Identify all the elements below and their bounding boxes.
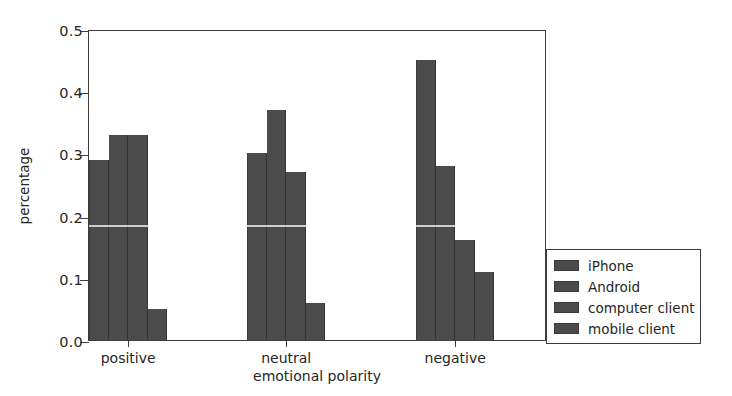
scan-artifact-line — [89, 225, 545, 227]
y-tick-label: 0.5 — [59, 23, 83, 39]
legend-label: iPhone — [588, 258, 634, 274]
bar-neutral-iPhone — [247, 153, 267, 340]
bar-positive-mobile-client — [148, 309, 168, 340]
legend-swatch-icon — [554, 281, 579, 292]
y-tick-label: 0.2 — [59, 210, 83, 226]
x-tick-label-negative: negative — [425, 350, 486, 366]
bar-negative-mobile-client — [475, 272, 495, 340]
y-tick-label: 0.4 — [59, 85, 83, 101]
bar-negative-Android — [436, 166, 456, 340]
bar-neutral-Android — [267, 110, 287, 340]
bar-chart-figure: percentage 0.00.10.20.30.40.5 positivene… — [0, 0, 732, 396]
x-tick-mark-neutral — [286, 340, 287, 347]
legend-label: mobile client — [588, 321, 675, 337]
x-tick-label-positive: positive — [101, 350, 156, 366]
x-axis-label: emotional polarity — [253, 368, 381, 384]
y-tick-label: 0.1 — [59, 272, 83, 288]
y-axis-label: percentage — [16, 148, 32, 225]
legend-swatch-icon — [554, 323, 579, 334]
bar-positive-iPhone — [89, 160, 109, 340]
legend-item-Android: Android — [554, 276, 693, 297]
bar-negative-computer-client — [455, 240, 475, 340]
legend-item-mobile-client: mobile client — [554, 318, 693, 339]
legend-swatch-icon — [554, 260, 579, 271]
y-tick-label: 0.3 — [59, 147, 83, 163]
bar-positive-Android — [109, 135, 129, 340]
x-tick-mark-positive — [128, 340, 129, 347]
bar-neutral-mobile-client — [306, 303, 326, 340]
y-tick-label: 0.0 — [59, 334, 83, 350]
bar-negative-iPhone — [416, 60, 436, 340]
plot-area: 0.00.10.20.30.40.5 positiveneutralnegati… — [88, 30, 546, 341]
x-tick-label-neutral: neutral — [261, 350, 311, 366]
legend-swatch-icon — [554, 302, 579, 313]
bar-positive-computer-client — [128, 135, 148, 340]
x-tick-mark-negative — [455, 340, 456, 347]
bar-neutral-computer-client — [286, 172, 306, 340]
legend-label: Android — [588, 279, 640, 295]
legend-item-iPhone: iPhone — [554, 255, 693, 276]
legend-item-computer-client: computer client — [554, 297, 693, 318]
legend: iPhoneAndroidcomputer clientmobile clien… — [546, 249, 701, 344]
legend-label: computer client — [588, 300, 694, 316]
